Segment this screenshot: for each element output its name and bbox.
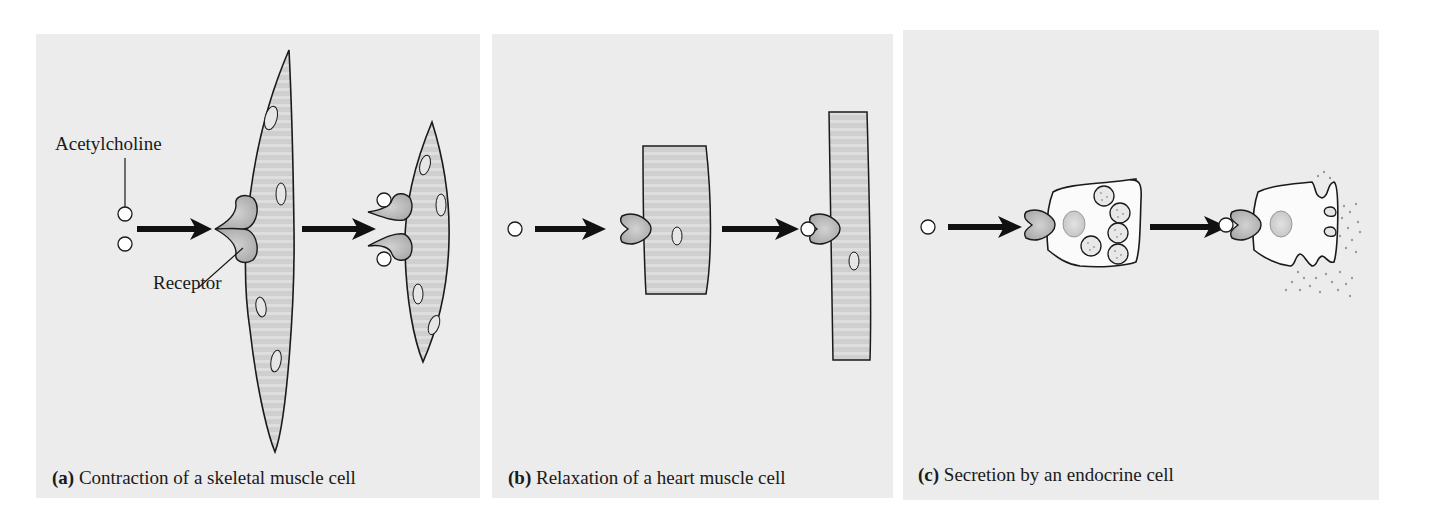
acetylcholine-molecule — [118, 237, 132, 251]
caption-a-text: Contraction of a skeletal muscle cell — [79, 467, 356, 488]
receptor — [215, 228, 257, 262]
arrow-icon — [137, 218, 212, 240]
exocytosis-pocket — [1324, 227, 1336, 236]
signal-molecule — [921, 220, 935, 234]
caption-b-letter: (b) — [508, 467, 531, 488]
acetylcholine-molecule-bound — [377, 252, 391, 266]
acetylcholine-molecule-bound — [377, 193, 391, 207]
signal-molecule — [508, 222, 522, 236]
secretory-vesicle — [1108, 223, 1128, 243]
panel-b-art — [508, 112, 871, 360]
secretory-vesicle — [1081, 236, 1101, 256]
panel-c-art — [921, 171, 1361, 297]
secretory-vesicle — [1094, 186, 1114, 206]
arrow-icon — [1150, 216, 1228, 238]
endocrine-cell-secreting — [1253, 182, 1338, 266]
signal-molecule-bound — [1219, 218, 1233, 232]
panel-a-art — [118, 50, 449, 452]
caption-a: (a) Contraction of a skeletal muscle cel… — [52, 467, 356, 489]
signal-molecule-bound — [801, 222, 815, 236]
receptor — [215, 196, 257, 230]
caption-a-letter: (a) — [52, 467, 74, 488]
exocytosis-pocket — [1324, 207, 1336, 216]
arrow-icon — [302, 218, 376, 240]
caption-c-text: Secretion by an endocrine cell — [944, 464, 1174, 485]
arrow-icon — [535, 218, 606, 240]
acetylcholine-label: Acetylcholine — [55, 133, 162, 155]
figure-artwork — [0, 0, 1438, 530]
arrow-icon — [722, 218, 799, 240]
secretory-vesicle — [1108, 244, 1128, 264]
arrow-icon — [948, 216, 1022, 238]
acetylcholine-molecule — [118, 207, 132, 221]
caption-b: (b) Relaxation of a heart muscle cell — [508, 467, 786, 489]
caption-c: (c) Secretion by an endocrine cell — [918, 464, 1174, 486]
receptor-label: Receptor — [153, 272, 222, 294]
caption-b-text: Relaxation of a heart muscle cell — [536, 467, 786, 488]
caption-c-letter: (c) — [918, 464, 939, 485]
heart-muscle-cell-contracted — [643, 146, 711, 294]
secretory-vesicle — [1110, 203, 1130, 223]
